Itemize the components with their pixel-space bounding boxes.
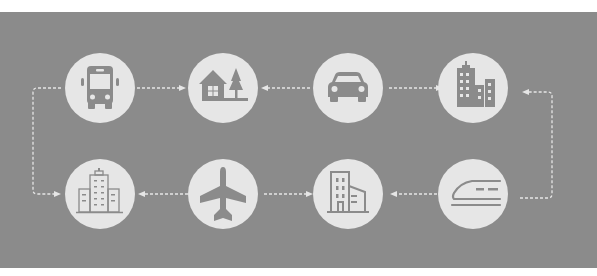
arrow-head-icon	[522, 89, 529, 95]
arrow-head-icon	[138, 191, 145, 197]
bullet-train-icon	[438, 159, 508, 229]
edge-train-city	[520, 92, 552, 198]
node-office-building	[65, 159, 135, 229]
car-icon	[313, 53, 383, 123]
arrow-head-icon	[306, 191, 313, 197]
connectors	[0, 0, 597, 276]
airplane-icon	[188, 159, 258, 229]
bus-icon	[65, 53, 135, 123]
apartment-building-icon	[313, 159, 383, 229]
arrow-head-icon	[261, 85, 268, 91]
node-bus	[65, 53, 135, 123]
city-skyline-icon	[438, 53, 508, 123]
node-apartment	[313, 159, 383, 229]
edge-bus-office	[33, 88, 61, 194]
arrow-head-icon	[179, 85, 186, 91]
office-building-icon	[65, 159, 135, 229]
arrow-head-icon	[390, 191, 397, 197]
node-city	[438, 53, 508, 123]
node-car	[313, 53, 383, 123]
node-airplane	[188, 159, 258, 229]
node-house	[188, 53, 258, 123]
node-bullet-train	[438, 159, 508, 229]
house-tree-icon	[188, 53, 258, 123]
arrow-head-icon	[54, 191, 61, 197]
